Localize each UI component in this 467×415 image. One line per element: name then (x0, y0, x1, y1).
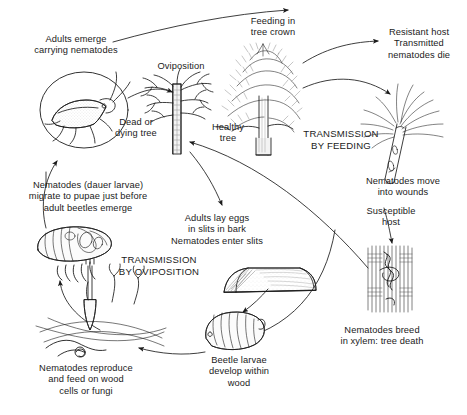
pine-wilt-disease-diagram: Adults emerge carrying nematodes Oviposi… (0, 0, 467, 415)
arrow-crown-to-resistant (303, 41, 378, 63)
label-dead-or-dying-tree: Dead or dying tree (102, 117, 170, 140)
label-beetle-larvae-develop: Beetle larvae develop within wood (184, 355, 294, 389)
beetle-larva-illustration (206, 312, 265, 350)
label-oviposition: Oviposition (133, 61, 229, 72)
label-healthy-tree: Healthy tree (200, 122, 256, 145)
label-susceptible-host: Susceptible host (352, 206, 430, 229)
xylem-cross-section-illustration (368, 246, 412, 312)
arrow-xylem-to-dead-tree (190, 142, 368, 268)
heading-transmission-by-feeding: TRANSMISSION BY FEEDING (286, 128, 396, 151)
label-adults-emerge: Adults emerge carrying nematodes (6, 34, 146, 57)
label-feeding-in-tree-crown: Feeding in tree crown (230, 16, 316, 39)
arrow-deadtree-to-layeggs (190, 152, 222, 205)
bark-slit-illustration (224, 268, 316, 292)
arrow-larva-to-fungi (139, 348, 205, 354)
arrow-bark-to-larva (243, 289, 268, 312)
label-nematodes-move-into-wounds: Nematodes move into wounds (348, 176, 458, 199)
heading-transmission-by-oviposition: TRANSMISSION BY OVIPOSITION (104, 254, 214, 277)
label-nematodes-breed-in-xylem: Nematodes breed in xylem: tree death (307, 325, 457, 348)
arrow-crown-to-shoot (303, 79, 390, 94)
label-nematodes-reproduce: Nematodes reproduce and feed on wood cel… (10, 363, 162, 397)
beetle-pupa-illustration (38, 227, 112, 282)
label-adults-lay-eggs: Adults lay eggs in slits in bark Nematod… (152, 213, 282, 247)
label-resistant-host: Resistant host Transmitted nematodes die (371, 27, 467, 61)
label-nematodes-dauer-larvae: Nematodes (dauer larvae) migrate to pupa… (8, 180, 168, 214)
